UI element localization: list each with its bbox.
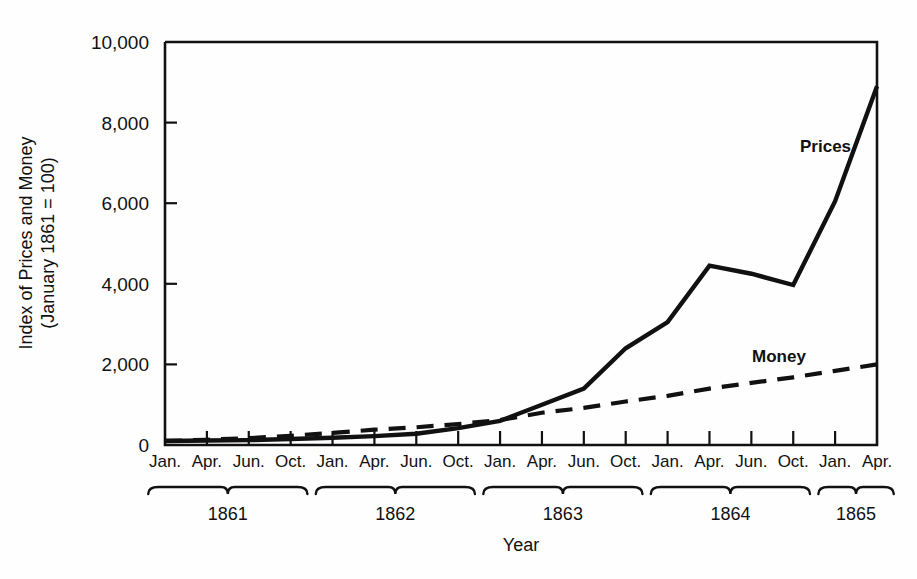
x-axis-tick-labels: Jan.Apr.Jun.Oct.Jan.Apr.Jun.Oct.Jan.Apr.…: [149, 452, 892, 471]
y-axis-title: Index of Prices and Money (January 1861 …: [16, 136, 58, 349]
x-tick-label: Apr.: [694, 452, 724, 471]
year-brace: [818, 487, 893, 494]
year-label: 1863: [543, 504, 583, 524]
x-axis-title: Year: [503, 535, 539, 555]
year-label: 1864: [710, 504, 750, 524]
y-axis-title-line2: (January 1861 = 100): [38, 157, 58, 329]
y-axis-tick-labels: 02,0004,0006,0008,00010,000: [91, 32, 149, 456]
data-series: [165, 86, 877, 441]
x-tick-label: Jun.: [568, 452, 600, 471]
x-tick-label: Oct.: [275, 452, 306, 471]
y-tick-label: 4,000: [101, 274, 149, 295]
x-tick-label: Jan.: [316, 452, 348, 471]
y-tick-label: 6,000: [101, 193, 149, 214]
x-tick-label: Apr.: [359, 452, 389, 471]
x-tick-label: Jan.: [149, 452, 181, 471]
y-axis-title-line1: Index of Prices and Money: [16, 136, 36, 349]
x-tick-label: Apr.: [862, 452, 892, 471]
year-brace: [148, 487, 307, 494]
prices-and-money-line-chart: 02,0004,0006,0008,00010,000 Jan.Apr.Jun.…: [0, 0, 917, 579]
x-tick-label: Jan.: [484, 452, 516, 471]
x-tick-label: Apr.: [192, 452, 222, 471]
x-tick-label: Oct.: [610, 452, 641, 471]
series-annotation-money: Money: [752, 347, 806, 366]
x-tick-label: Jun.: [735, 452, 767, 471]
x-tick-label: Oct.: [443, 452, 474, 471]
y-tick-label: 10,000: [91, 32, 149, 53]
year-group-labels: 18611862186318641865: [208, 504, 876, 524]
x-tick-label: Jan.: [819, 452, 851, 471]
series-line-money: [165, 364, 877, 441]
y-tick-label: 2,000: [101, 354, 149, 375]
year-brace: [651, 487, 810, 494]
y-tick-label: 0: [138, 435, 149, 456]
year-label: 1861: [208, 504, 248, 524]
x-tick-label: Apr.: [527, 452, 557, 471]
year-label: 1865: [836, 504, 876, 524]
y-tick-label: 8,000: [101, 113, 149, 134]
x-tick-label: Oct.: [778, 452, 809, 471]
chart-figure: 02,0004,0006,0008,00010,000 Jan.Apr.Jun.…: [0, 0, 917, 579]
plot-frame: [165, 42, 877, 445]
x-tick-label: Jan.: [652, 452, 684, 471]
series-annotation-prices: Prices: [800, 137, 851, 156]
year-group-braces: [148, 487, 894, 494]
series-line-prices: [165, 86, 877, 441]
plot-border: [165, 42, 877, 445]
year-brace: [316, 487, 475, 494]
x-tick-label: Jun.: [400, 452, 432, 471]
y-axis-ticks: [165, 123, 177, 365]
x-tick-label: Jun.: [233, 452, 265, 471]
year-brace: [483, 487, 642, 494]
year-label: 1862: [375, 504, 415, 524]
